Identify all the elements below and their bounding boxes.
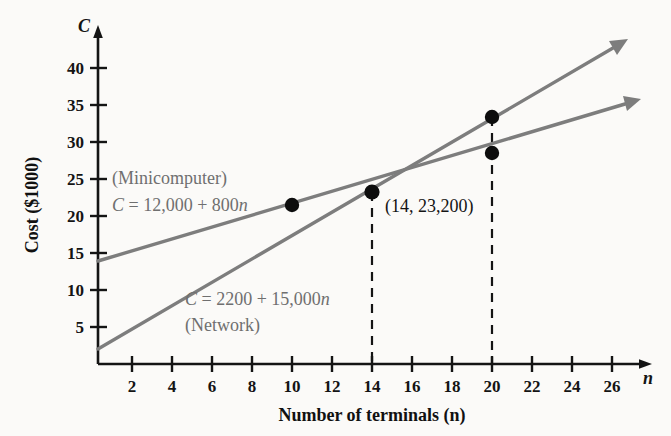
- annotation-minicomputer-equation: C = 12,000 + 800n: [112, 195, 248, 215]
- data-point-network-n20[interactable]: [485, 110, 499, 124]
- data-point-minicomputer-n20[interactable]: [485, 146, 499, 160]
- y-tick-label-5: 5: [76, 318, 85, 337]
- y-tick-label-20: 20: [67, 207, 84, 226]
- x-tick-label-16: 16: [404, 377, 421, 396]
- cost-vs-terminals-line-chart: 40 35 30 25 20 15 10 5 2 4 6 8 10 12 14 …: [0, 0, 671, 436]
- y-axis-title: Cost ($1000): [22, 157, 43, 254]
- annotation-intersection-coordinates: (14, 23,200): [385, 196, 474, 217]
- x-tick-label-26: 26: [604, 377, 621, 396]
- chart-background: [0, 0, 671, 436]
- y-axis-symbol-C: C: [78, 16, 91, 36]
- x-tick-label-18: 18: [444, 377, 461, 396]
- x-tick-label-8: 8: [248, 377, 257, 396]
- x-tick-label-4: 4: [168, 377, 177, 396]
- annotation-minicomputer-name: (Minicomputer): [112, 168, 227, 189]
- eq-var-n-net: n: [321, 289, 330, 309]
- y-tick-label-40: 40: [67, 59, 84, 78]
- x-tick-label-24: 24: [564, 377, 582, 396]
- x-tick-label-6: 6: [208, 377, 217, 396]
- annotation-network-name: (Network): [185, 315, 260, 336]
- y-tick-label-25: 25: [67, 170, 84, 189]
- x-tick-label-10: 10: [284, 377, 301, 396]
- x-axis-symbol-n: n: [643, 368, 653, 388]
- eq-var-n-mini: n: [239, 195, 248, 215]
- x-tick-label-2: 2: [128, 377, 137, 396]
- x-axis-title: Number of terminals (n): [278, 405, 465, 426]
- y-tick-label-10: 10: [67, 281, 84, 300]
- eq-body-net: = 2200 + 15,000: [197, 289, 321, 309]
- eq-body-mini: = 12,000 + 800: [124, 195, 239, 215]
- x-tick-label-20: 20: [484, 377, 501, 396]
- data-point-intersection-n14[interactable]: [364, 184, 379, 199]
- y-tick-label-30: 30: [67, 133, 84, 152]
- y-tick-label-15: 15: [67, 244, 84, 263]
- annotation-network-equation: C = 2200 + 15,000n: [185, 289, 330, 309]
- x-tick-label-12: 12: [324, 377, 341, 396]
- chart-figure: 40 35 30 25 20 15 10 5 2 4 6 8 10 12 14 …: [0, 0, 671, 436]
- data-point-minicomputer-n10[interactable]: [285, 198, 299, 212]
- y-tick-label-35: 35: [67, 96, 84, 115]
- x-tick-label-22: 22: [524, 377, 541, 396]
- x-tick-label-14: 14: [364, 377, 382, 396]
